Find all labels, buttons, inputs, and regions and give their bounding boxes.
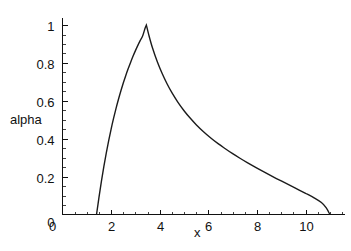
x-axis-title: x <box>194 225 201 240</box>
alpha-vs-x-line-chart: 0246810 00.20.40.60.81 alpha x <box>0 0 351 251</box>
chart-figure: 0246810 00.20.40.60.81 alpha x <box>0 0 351 251</box>
x-tick-label: 4 <box>157 219 164 234</box>
x-tick-label: 2 <box>108 219 115 234</box>
y-tick-label: 0.2 <box>36 171 54 186</box>
x-tick-label: 10 <box>299 219 313 234</box>
y-tick-label: 0 <box>47 215 54 230</box>
x-tick-label: 8 <box>254 219 261 234</box>
y-tick-label: 0.8 <box>36 57 54 72</box>
chart-background <box>0 0 351 251</box>
x-tick-label: 6 <box>205 219 212 234</box>
y-tick-label: 0.6 <box>36 95 54 110</box>
y-tick-label: 1 <box>47 19 54 34</box>
y-axis-title: alpha <box>10 112 43 127</box>
y-tick-label: 0.4 <box>36 133 54 148</box>
